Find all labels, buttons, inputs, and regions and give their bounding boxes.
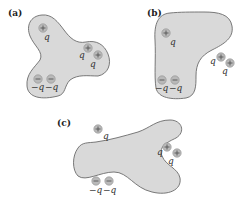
panel-label-b: (b) (147, 8, 162, 18)
negative-charge (105, 177, 113, 185)
positive-charge (162, 29, 170, 37)
positive-charge (39, 24, 47, 32)
charge-label: q (168, 156, 174, 166)
charge-label: q (222, 66, 228, 76)
positive-charge (163, 143, 171, 151)
charge-label: −q (169, 83, 183, 93)
positive-charge (94, 125, 102, 133)
charge-label: q (170, 37, 176, 47)
charge-label: −q (103, 185, 117, 195)
positive-charge (217, 53, 225, 61)
panel-label-c: (c) (57, 118, 71, 128)
charge-label: −q (31, 82, 45, 92)
charge-label: q (90, 59, 96, 69)
charge-label: −q (45, 82, 59, 92)
charge-label: q (44, 32, 50, 42)
positive-charge (173, 149, 181, 157)
charge-label: q (79, 50, 85, 60)
charge-label: q (103, 131, 109, 141)
surface-blob-c (74, 120, 182, 193)
negative-charge (92, 177, 100, 185)
charges-diagram: (a) q q q −q −q (0, 0, 249, 207)
panel-a: (a) q q q −q −q (8, 8, 110, 98)
panel-c: (c) q q q −q −q (57, 118, 182, 195)
positive-charge (94, 51, 102, 59)
panel-b: (b) q −q −q q q (147, 8, 234, 99)
charge-label: q (157, 147, 163, 157)
panel-label-a: (a) (8, 8, 22, 18)
charge-label: q (210, 56, 216, 66)
charge-label: −q (155, 83, 169, 93)
charge-label: −q (89, 185, 103, 195)
positive-charge (84, 44, 92, 52)
